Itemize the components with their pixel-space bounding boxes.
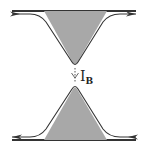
bottom-gate-shape <box>44 88 107 141</box>
qpc-diagram: IB <box>0 0 148 149</box>
arrow-left-icon <box>128 135 138 140</box>
backscatter-label: IB <box>80 68 94 86</box>
top-gate-shape <box>44 11 107 65</box>
arrow-right-icon <box>10 12 20 17</box>
